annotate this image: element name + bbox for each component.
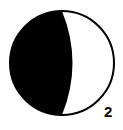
phase-number-label: 2 [104,104,112,119]
moon-shadow [10,11,73,115]
moon-phase-diagram: 2 [0,0,123,130]
